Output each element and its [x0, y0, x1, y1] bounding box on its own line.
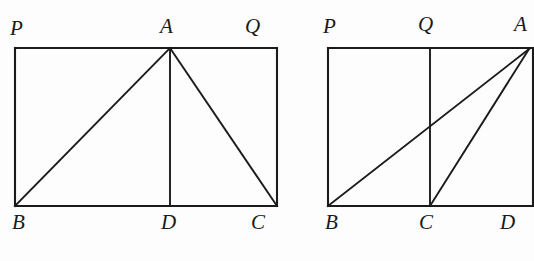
left-label-B: B	[12, 212, 25, 233]
right-label-D: D	[500, 212, 515, 233]
left-label-C: C	[251, 212, 265, 233]
left-triangle-side-AC	[170, 48, 277, 206]
right-panel	[328, 48, 534, 206]
right-label-B: B	[325, 212, 338, 233]
geometry-figure: P A Q B D C P Q A B C D	[0, 0, 534, 261]
right-label-A: A	[514, 14, 527, 35]
left-label-Q: Q	[245, 16, 260, 37]
left-label-D: D	[161, 212, 176, 233]
right-label-C: C	[419, 212, 433, 233]
right-triangle-side-BA	[328, 49, 529, 206]
left-label-P: P	[10, 18, 23, 39]
left-label-A: A	[160, 16, 173, 37]
right-label-Q: Q	[418, 14, 433, 35]
left-triangle-side-BA	[15, 48, 170, 206]
right-label-P: P	[323, 16, 336, 37]
figure-canvas	[0, 0, 534, 261]
right-triangle-side-CA	[430, 49, 529, 206]
left-panel	[15, 48, 277, 206]
